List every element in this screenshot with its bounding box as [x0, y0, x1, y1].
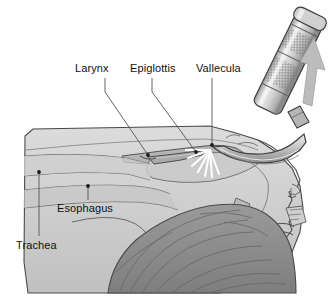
- airway-laryngoscopy-diagram: [0, 0, 331, 308]
- label-esophagus: Esophagus: [57, 203, 113, 214]
- label-vallecula: Vallecula: [196, 63, 241, 74]
- label-larynx: Larynx: [75, 63, 109, 74]
- label-epiglottis: Epiglottis: [130, 63, 176, 74]
- illustration-canvas: Larynx Epiglottis Vallecula Esophagus Tr…: [0, 0, 331, 308]
- label-trachea: Trachea: [16, 240, 57, 251]
- blade-handle-connector: [288, 106, 309, 128]
